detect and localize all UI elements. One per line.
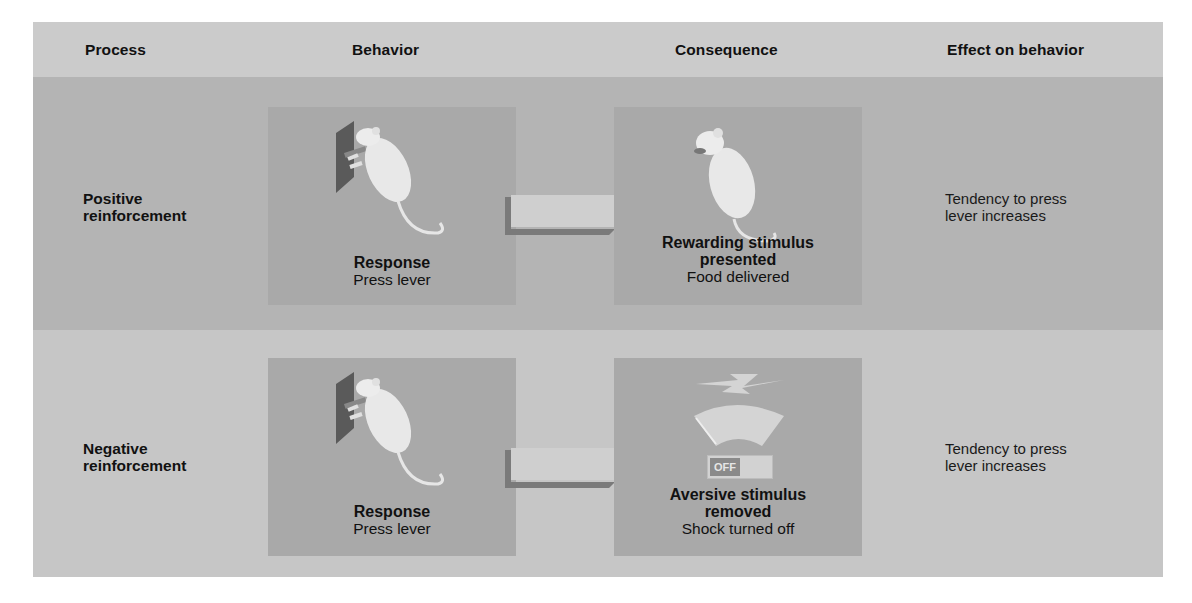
table-header: Process Behavior Consequence Effect on b… xyxy=(33,22,1163,77)
row-positive-reinforcement: Positive reinforcement Response Press le… xyxy=(33,77,1163,330)
behavior-title: Response xyxy=(268,254,516,271)
effect-line: Tendency to press xyxy=(945,190,1067,207)
consequence-caption: Rewarding stimulus presented Food delive… xyxy=(614,234,862,285)
process-label: Negative reinforcement xyxy=(83,440,186,474)
effect-line: Tendency to press xyxy=(945,440,1067,457)
row-negative-reinforcement: Negative reinforcement Response Press le… xyxy=(33,330,1163,577)
behavior-detail: Press lever xyxy=(268,271,516,288)
consequence-title-line2: removed xyxy=(614,503,862,520)
consequence-caption: Aversive stimulus removed Shock turned o… xyxy=(614,486,862,537)
effect-line: lever increases xyxy=(945,457,1067,474)
header-effect: Effect on behavior xyxy=(947,41,1084,59)
consequence-title: Aversive stimulus xyxy=(614,486,862,503)
off-label: OFF xyxy=(710,458,740,476)
behavior-caption: Response Press lever xyxy=(268,503,516,537)
process-label: Positive reinforcement xyxy=(83,190,186,224)
behavior-panel: Response Press lever xyxy=(268,358,516,556)
process-label-line: Positive xyxy=(83,190,186,207)
header-process: Process xyxy=(85,41,146,59)
effect-text: Tendency to press lever increases xyxy=(945,190,1067,224)
process-label-line: reinforcement xyxy=(83,457,186,474)
header-consequence: Consequence xyxy=(675,41,778,59)
consequence-title-line2: presented xyxy=(614,251,862,268)
effect-text: Tendency to press lever increases xyxy=(945,440,1067,474)
consequence-panel: Rewarding stimulus presented Food delive… xyxy=(614,107,862,305)
behavior-title: Response xyxy=(268,503,516,520)
behavior-caption: Response Press lever xyxy=(268,254,516,288)
behavior-detail: Press lever xyxy=(268,520,516,537)
lightning-bolt-icon xyxy=(692,372,788,468)
process-label-line: Negative xyxy=(83,440,186,457)
rat-pressing-lever-icon xyxy=(328,366,458,496)
consequence-title: Rewarding stimulus xyxy=(614,234,862,251)
rat-pressing-lever-icon xyxy=(328,115,458,245)
reinforcement-table: Process Behavior Consequence Effect on b… xyxy=(33,22,1163,577)
process-label-line: reinforcement xyxy=(83,207,186,224)
header-behavior: Behavior xyxy=(352,41,419,59)
behavior-panel: Response Press lever xyxy=(268,107,516,305)
effect-line: lever increases xyxy=(945,207,1067,224)
consequence-detail: Food delivered xyxy=(614,268,862,285)
rat-eating-icon xyxy=(676,115,796,245)
consequence-panel: OFF Aversive stimulus removed Shock turn… xyxy=(614,358,862,556)
shock-off-switch-icon: OFF xyxy=(707,455,773,479)
consequence-detail: Shock turned off xyxy=(614,520,862,537)
